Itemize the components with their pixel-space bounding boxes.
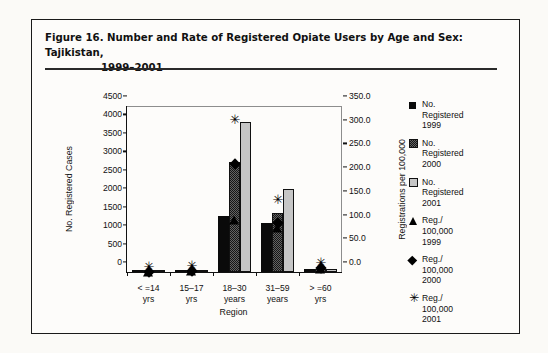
data-marker [231,160,239,168]
bar [154,270,165,272]
y-tick-left: 2500 [78,165,127,175]
bar [240,122,251,272]
bar [175,270,186,272]
data-marker: ✳ [273,200,284,208]
x-axis-label: Region [126,307,341,317]
legend-key [409,177,422,189]
x-tick-mark [170,272,171,276]
legend-label-line: 2000 [422,275,453,286]
bars [127,106,170,272]
bar [283,189,294,272]
legend-label-line: 100,000 [422,265,453,276]
tick-mark [343,190,347,191]
y-tick-right: 350.0 [342,91,395,101]
data-marker [274,219,282,227]
x-tick-mark [299,272,300,276]
bar-group: ✳18–30years [213,106,256,272]
legend-label-line: No. [422,99,464,110]
legend-label-line: Registered [422,148,464,159]
data-marker [229,215,239,224]
bars [213,106,256,272]
triangle-marker-icon [409,217,417,225]
legend-label-line: 1999 [422,237,453,248]
bars [256,106,299,272]
square-checked-marker-icon [409,139,418,148]
diamond-marker-icon [272,217,283,228]
x-tick-mark [127,272,128,276]
legend-label-line: No. [422,138,464,149]
y-tick-right: 150.0 [342,186,395,196]
legend-label-line: 1999 [422,120,464,131]
legend-key [409,138,422,150]
bar [304,269,315,272]
category-label-line-2: yrs [291,294,351,305]
x-tick-mark [256,272,257,276]
square-dotted-marker-icon [409,178,418,187]
data-marker: ✳ [316,263,327,271]
asterisk-marker-icon: ✳ [230,116,241,124]
y-axis-label-left: No. Registered Cases [62,106,75,272]
legend-label-line: 2000 [422,159,464,170]
tick-mark [343,238,347,239]
legend-item: No.Registered2001 [409,177,505,209]
asterisk-marker-icon: ✳ [316,259,327,267]
legend-label: No.Registered2000 [422,138,464,170]
y-tick-left: 3000 [78,146,127,156]
legend-label-line: No. [422,177,464,188]
bar-group: ✳< =14yrs [127,106,170,272]
y-tick-left: 2000 [78,183,127,193]
legend-label-line: Registered [422,187,464,198]
bar [218,216,229,272]
tick-mark [343,167,347,168]
legend-label-line: Reg./ [422,293,453,304]
legend-label: Reg./100,0002000 [422,254,453,286]
tick-mark [343,261,347,262]
legend-label: Reg./100,0001999 [422,215,453,247]
legend-label: Reg./100,0002001 [422,293,453,325]
y-tick-right: 200.0 [342,162,395,172]
y-tick-left: 0 [78,257,127,267]
x-tick-mark [213,272,214,276]
bars [299,106,342,272]
diamond-marker-icon [408,256,417,265]
legend-key [409,99,422,111]
asterisk-marker-icon: ✳ [144,263,155,271]
plot-area: 050010001500200025003000350040004500 0.0… [126,106,342,273]
legend-item: No.Registered2000 [409,138,505,170]
legend-label-line: 2001 [422,314,453,325]
data-marker: ✳ [187,266,198,274]
y-tick-right: 300.0 [342,115,395,125]
asterisk-marker-icon: ✳ [409,294,419,303]
bar-group: ✳> =60yrs [299,106,342,272]
diamond-marker-icon [229,158,240,169]
legend-item: Reg./100,0001999 [409,215,505,247]
y-tick-left: 3500 [78,128,127,138]
y-tick-right: 100.0 [342,210,395,220]
legend-label-line: Registered [422,110,464,121]
legend-label-line: 100,000 [422,226,453,237]
legend-label-line: 2001 [422,198,464,209]
asterisk-marker-icon: ✳ [187,262,198,270]
bar [197,270,208,272]
bar-group: ✳31–59years [256,106,299,272]
figure-title-line-1: Figure 16. Number and Rate of Registered… [45,30,495,60]
legend-key [409,215,422,227]
y-tick-left: 1000 [78,220,127,230]
bars [170,106,213,272]
bar-group: ✳15–17yrs [170,106,213,272]
legend-label-line: 100,000 [422,304,453,315]
legend-label-line: Reg./ [422,254,453,265]
data-marker: ✳ [144,267,155,275]
legend-item: ✳Reg./100,0002001 [409,293,505,325]
legend-label: No.Registered1999 [422,99,464,131]
bar [326,269,337,272]
tick-mark [343,143,347,144]
x-axis-category-label: > =60yrs [291,283,351,305]
bar [261,223,272,272]
category-label-line-1: > =60 [291,283,351,294]
figure-page: Figure 16. Number and Rate of Registered… [0,0,548,353]
tick-mark [343,214,347,215]
title-divider [45,68,497,70]
legend-key [409,254,422,266]
triangle-marker-icon [229,215,239,224]
